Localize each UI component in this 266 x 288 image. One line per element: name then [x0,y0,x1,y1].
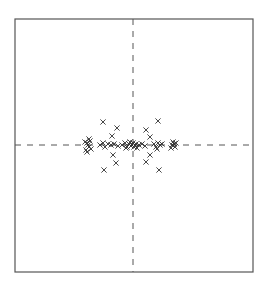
data-point-x-marker [109,133,114,138]
data-point-x-marker [159,141,164,146]
data-point-x-marker [114,125,119,130]
data-point-x-marker [151,141,156,146]
data-point-x-marker [84,149,89,154]
data-point-x-marker [110,152,115,157]
data-point-x-marker [147,152,152,157]
data-point-x-marker [82,139,87,144]
data-point-x-marker [142,143,147,148]
data-point-x-marker [143,127,148,132]
data-point-x-marker [113,160,118,165]
data-point-x-marker [156,167,161,172]
data-point-x-marker [143,159,148,164]
data-point-x-marker [101,167,106,172]
data-point-x-marker [154,146,159,151]
data-point-x-marker [100,119,105,124]
data-point-x-marker [88,146,93,151]
data-point-x-marker [83,147,88,152]
scatter-plot [0,0,266,288]
data-point-x-marker [147,134,152,139]
data-point-x-marker [155,118,160,123]
